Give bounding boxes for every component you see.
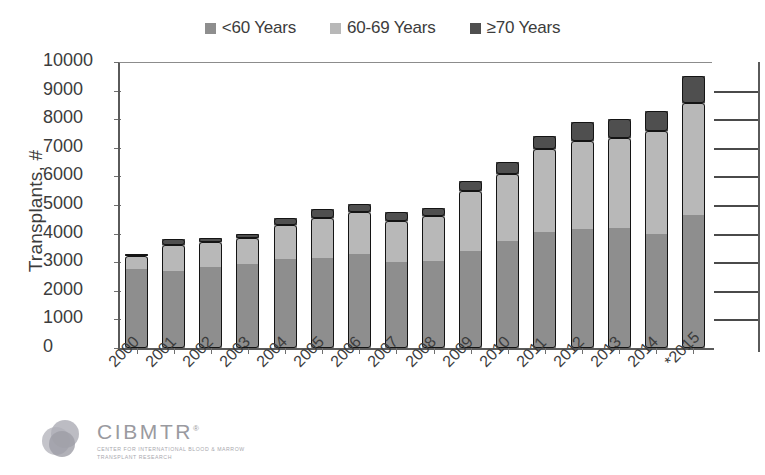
bar-stack[interactable] xyxy=(199,238,222,348)
plot-area-wrapper: 2000200120022003200420052006200720082009… xyxy=(118,62,712,348)
bar-segment-70-plus[interactable] xyxy=(199,238,222,242)
bar-segment-70-plus[interactable] xyxy=(236,234,259,238)
bar-segment-under-60[interactable] xyxy=(571,229,594,348)
legend-item-under-60[interactable]: <60 Years xyxy=(205,18,296,38)
square-swatch-icon xyxy=(205,23,216,34)
right-axis-tick-mark xyxy=(714,176,760,178)
bar-segment-60-69[interactable] xyxy=(608,138,631,228)
legend-label-60-69: 60-69 Years xyxy=(347,18,436,38)
bar-stack[interactable] xyxy=(422,208,445,348)
bar-stack[interactable] xyxy=(274,218,297,348)
bar-stack[interactable] xyxy=(533,136,556,348)
bar-stack[interactable] xyxy=(459,181,482,348)
bar-stack[interactable] xyxy=(385,212,408,348)
bar-stack[interactable] xyxy=(236,234,259,348)
bar-segment-60-69[interactable] xyxy=(571,141,594,230)
bar-segment-70-plus[interactable] xyxy=(348,204,371,213)
right-axis-tick-mark xyxy=(714,234,760,236)
bar-segment-70-plus[interactable] xyxy=(496,162,519,173)
bar-segment-60-69[interactable] xyxy=(274,225,297,259)
bar-segment-70-plus[interactable] xyxy=(422,208,445,217)
bar-segment-under-60[interactable] xyxy=(533,232,556,348)
bar-segment-70-plus[interactable] xyxy=(311,209,334,218)
bar-segment-60-69[interactable] xyxy=(236,238,259,264)
cibmtr-wordmark: CIBMTR® xyxy=(97,420,247,444)
bar-segment-70-plus[interactable] xyxy=(162,239,185,245)
legend-item-60-69[interactable]: 60-69 Years xyxy=(330,18,436,38)
bar-segment-60-69[interactable] xyxy=(533,149,556,232)
right-axis-tick-mark xyxy=(714,291,760,293)
bar-segment-60-69[interactable] xyxy=(496,174,519,241)
bar-segment-under-60[interactable] xyxy=(608,228,631,348)
bar-segment-70-plus[interactable] xyxy=(682,76,705,103)
cibmtr-logo: CIBMTR® CENTER FOR INTERNATIONAL BLOOD &… xyxy=(42,418,247,464)
bar-stack[interactable] xyxy=(496,162,519,348)
right-axis-line xyxy=(758,62,760,352)
bar-segment-70-plus[interactable] xyxy=(274,218,297,225)
bar-segment-under-60[interactable] xyxy=(496,241,519,348)
bar-segment-under-60[interactable] xyxy=(645,234,668,348)
cibmtr-logo-mark-icon xyxy=(42,418,88,464)
right-axis-tick-mark xyxy=(714,91,760,93)
trademark-icon: ® xyxy=(193,424,199,433)
bar-segment-60-69[interactable] xyxy=(385,221,408,262)
bar-segment-70-plus[interactable] xyxy=(608,119,631,138)
bar-segment-70-plus[interactable] xyxy=(533,136,556,149)
bar-stack[interactable] xyxy=(608,119,631,348)
bar-segment-70-plus[interactable] xyxy=(645,111,668,131)
legend-label-70-plus: ≥70 Years xyxy=(487,18,561,38)
right-axis-tick-mark xyxy=(714,148,760,150)
right-axis-tick-mark xyxy=(714,119,760,121)
bar-segment-60-69[interactable] xyxy=(199,242,222,266)
bar-stack[interactable] xyxy=(571,122,594,348)
cibmtr-wordmark-text: CIBMTR xyxy=(97,420,193,443)
bar-segment-60-69[interactable] xyxy=(311,218,334,258)
cibmtr-logo-text: CIBMTR® CENTER FOR INTERNATIONAL BLOOD &… xyxy=(97,420,247,461)
right-axis-tick-mark xyxy=(714,319,760,321)
bar-segment-60-69[interactable] xyxy=(125,257,148,269)
bar-stack[interactable] xyxy=(311,209,334,348)
cibmtr-tagline: CENTER FOR INTERNATIONAL BLOOD & MARROW … xyxy=(97,446,247,461)
bar-stack[interactable] xyxy=(162,239,185,348)
bar-stack[interactable] xyxy=(682,76,705,348)
bar-segment-60-69[interactable] xyxy=(348,212,371,253)
right-axis-tick-mark xyxy=(714,205,760,207)
bar-stack[interactable] xyxy=(348,204,371,348)
bar-stack[interactable] xyxy=(645,111,668,348)
bar-segment-under-60[interactable] xyxy=(682,215,705,348)
bar-segment-60-69[interactable] xyxy=(422,216,445,260)
square-swatch-icon xyxy=(330,23,341,34)
chart-legend: <60 Years 60-69 Years ≥70 Years xyxy=(0,18,765,38)
legend-item-70-plus[interactable]: ≥70 Years xyxy=(470,18,561,38)
chart-figure: <60 Years 60-69 Years ≥70 Years Transpla… xyxy=(0,0,765,475)
bar-segment-60-69[interactable] xyxy=(682,103,705,215)
bar-segment-60-69[interactable] xyxy=(645,131,668,234)
bar-segment-70-plus[interactable] xyxy=(125,254,148,257)
bar-segment-60-69[interactable] xyxy=(162,245,185,271)
right-axis-tick-mark xyxy=(714,262,760,264)
square-swatch-icon xyxy=(470,23,481,34)
bar-segment-60-69[interactable] xyxy=(459,191,482,251)
bar-segment-70-plus[interactable] xyxy=(459,181,482,191)
legend-label-under-60: <60 Years xyxy=(222,18,296,38)
bar-segment-70-plus[interactable] xyxy=(385,212,408,221)
bar-segment-70-plus[interactable] xyxy=(571,122,594,141)
